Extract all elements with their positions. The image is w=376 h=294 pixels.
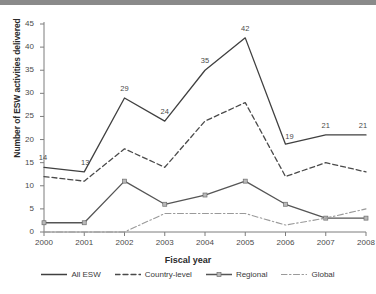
legend-label: All ESW xyxy=(71,270,100,279)
chart-figure: Number of ESW activities delivered Fisca… xyxy=(0,5,376,294)
x-tick-label: 2005 xyxy=(225,238,265,247)
data-point-label: 14 xyxy=(30,153,56,162)
series-marker-regional xyxy=(243,179,247,183)
y-tick-label: 20 xyxy=(12,135,34,144)
legend-label: Regional xyxy=(236,270,268,279)
legend-item-country-level[interactable]: Country-level xyxy=(115,270,192,279)
x-tick-label: 2002 xyxy=(105,238,145,247)
series-line-regional xyxy=(44,181,366,223)
data-point-label: 21 xyxy=(350,121,376,130)
legend-item-regional[interactable]: Regional xyxy=(206,270,268,279)
data-point-label: 24 xyxy=(152,107,178,116)
legend-swatch xyxy=(115,270,141,279)
legend-item-all-esw[interactable]: All ESW xyxy=(41,270,100,279)
x-tick-label: 2006 xyxy=(266,238,306,247)
y-tick-label: 10 xyxy=(12,181,34,190)
x-tick-label: 2000 xyxy=(24,238,64,247)
series-marker-regional xyxy=(82,221,86,225)
data-point-label: 35 xyxy=(192,56,218,65)
legend-label: Global xyxy=(311,270,334,279)
legend-swatch xyxy=(41,270,67,279)
series-marker-regional xyxy=(203,193,207,197)
series-lines xyxy=(42,38,368,232)
legend-item-global[interactable]: Global xyxy=(281,270,334,279)
plot-area xyxy=(0,5,376,294)
series-marker-regional xyxy=(284,202,288,206)
y-tick-label: 35 xyxy=(12,65,34,74)
series-marker-regional xyxy=(163,202,167,206)
series-line-country-level xyxy=(44,103,366,182)
x-tick-label: 2003 xyxy=(145,238,185,247)
series-marker-regional xyxy=(123,179,127,183)
series-marker-regional xyxy=(364,216,368,220)
legend-swatch xyxy=(281,270,307,279)
y-tick-label: 40 xyxy=(12,42,34,51)
y-tick-label: 5 xyxy=(12,204,34,213)
legend-swatch xyxy=(206,270,232,279)
x-tick-label: 2008 xyxy=(346,238,376,247)
y-tick-label: 30 xyxy=(12,88,34,97)
chart-legend: All ESWCountry-levelRegionalGlobal xyxy=(0,270,376,279)
y-tick-label: 25 xyxy=(12,111,34,120)
series-line-global xyxy=(44,209,366,232)
x-tick-label: 2004 xyxy=(185,238,225,247)
x-tick-label: 2007 xyxy=(306,238,346,247)
legend-label: Country-level xyxy=(145,270,192,279)
data-point-label: 42 xyxy=(232,24,258,33)
series-marker-regional xyxy=(42,221,46,225)
x-tick-label: 2001 xyxy=(64,238,104,247)
data-point-label: 19 xyxy=(277,132,303,141)
y-tick-label: 45 xyxy=(12,19,34,28)
y-tick-label: 0 xyxy=(12,227,34,236)
data-point-label: 13 xyxy=(72,158,98,167)
data-point-label: 21 xyxy=(313,121,339,130)
data-point-label: 29 xyxy=(112,84,138,93)
